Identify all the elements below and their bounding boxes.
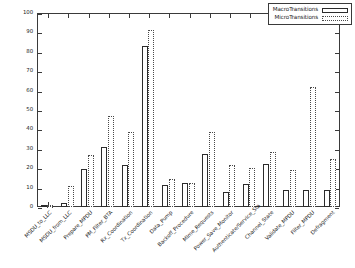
- bar-group: [243, 13, 256, 207]
- chart-legend: MacroTransitions MicroTransitions: [268, 3, 352, 25]
- bar-group: [202, 13, 215, 207]
- y-tick-label: 90: [7, 30, 33, 35]
- y-tick-label: 0: [7, 204, 33, 209]
- bar-micro: [108, 116, 114, 207]
- y-tick-label: 60: [7, 88, 33, 93]
- y-tick-label: 80: [7, 49, 33, 54]
- bar-micro: [88, 155, 94, 207]
- bar-micro: [330, 159, 336, 208]
- bar-group: [162, 13, 175, 207]
- bar-group: [263, 13, 276, 207]
- bar-group: [182, 13, 195, 207]
- bar-macro: [142, 46, 148, 207]
- legend-item-macro: MacroTransitions: [273, 6, 348, 14]
- bar-micro: [209, 132, 215, 207]
- x-tick-label: Defragment: [292, 210, 335, 253]
- bar-group: [142, 13, 155, 207]
- bar-macro: [41, 205, 47, 207]
- bar-group: [61, 13, 74, 207]
- bar-group: [223, 13, 236, 207]
- y-tick-label: 40: [7, 127, 33, 132]
- legend-key-micro-icon: [322, 16, 348, 21]
- bar-micro: [169, 179, 175, 207]
- bar-macro: [324, 190, 330, 207]
- bar-group: [41, 13, 54, 207]
- legend-key-macro-icon: [322, 8, 348, 13]
- bar-micro: [249, 168, 255, 207]
- bar-micro: [270, 152, 276, 207]
- legend-label-micro: MicroTransitions: [275, 15, 318, 21]
- bar-micro: [310, 87, 316, 207]
- bar-micro: [128, 132, 134, 207]
- bar-macro: [202, 154, 208, 207]
- y-tick-label: 70: [7, 68, 33, 73]
- bar-macro: [101, 147, 107, 207]
- bar-micro: [189, 183, 195, 207]
- y-tick-label: 50: [7, 107, 33, 112]
- bar-macro: [162, 185, 168, 207]
- y-tick-label: 10: [7, 185, 33, 190]
- bar-macro: [122, 165, 128, 207]
- bar-group: [303, 13, 316, 207]
- bar-group: [283, 13, 296, 207]
- legend-item-micro: MicroTransitions: [273, 14, 348, 22]
- bar-macro: [243, 184, 249, 207]
- bar-micro: [148, 30, 154, 208]
- y-tick-label: 100: [7, 10, 33, 15]
- y-tick-label: 30: [7, 146, 33, 151]
- bar-group: [122, 13, 135, 207]
- y-tick-mark-right: [335, 208, 339, 209]
- y-tick-label: 20: [7, 165, 33, 170]
- bar-group: [101, 13, 114, 207]
- bar-micro: [47, 205, 53, 207]
- bar-macro: [223, 192, 229, 207]
- legend-label-macro: MacroTransitions: [273, 7, 318, 13]
- bar-macro: [303, 190, 309, 207]
- chart-page: 0102030405060708090100 MSDU_to_LLCMSDU_f…: [0, 0, 355, 268]
- bar-group: [324, 13, 337, 207]
- bar-micro: [68, 186, 74, 207]
- bar-macro: [283, 190, 289, 207]
- bar-group: [81, 13, 94, 207]
- bar-micro: [229, 165, 235, 207]
- y-tick-mark: [38, 208, 42, 209]
- bar-macro: [61, 203, 67, 207]
- bar-micro: [290, 170, 296, 207]
- bar-macro: [81, 169, 87, 207]
- bar-macro: [182, 183, 188, 207]
- bar-macro: [263, 164, 269, 207]
